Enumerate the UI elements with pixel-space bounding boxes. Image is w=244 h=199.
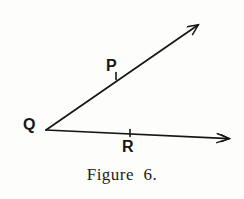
ray-qp [46,25,198,130]
vertex-label-q: Q [23,117,35,133]
ray-qr [46,130,229,139]
point-label-r: R [122,139,134,155]
figure-caption: Figure 6. [0,164,244,186]
point-label-p: P [106,58,117,74]
figure-container: Q P R Figure 6. [0,0,244,199]
